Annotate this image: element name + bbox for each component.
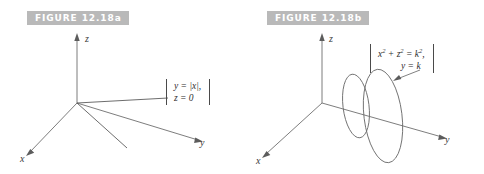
figure-panel-a: FIGURE 12.18a z x y: [0, 0, 242, 174]
figure-a-equation-line-2: z = 0: [174, 92, 201, 104]
z-axis-b: [319, 33, 324, 103]
figure-a-equation-box: y = |x|, z = 0: [166, 79, 210, 105]
figure-b-equation-line-1: x2 + z2 = k2,: [378, 45, 425, 60]
figure-pair-page: FIGURE 12.18a z x y: [0, 0, 484, 174]
circle-cross-section-large: [358, 67, 407, 165]
figure-b-equation-line-2: y = k: [378, 60, 425, 72]
figure-b-graphic: [242, 0, 484, 174]
figure-b-eq1-post: = k: [404, 49, 419, 59]
x-axis-b: [262, 103, 322, 158]
figure-b-equation-box: x2 + z2 = k2, y = k: [370, 44, 434, 73]
figure-panel-b: FIGURE 12.18b: [242, 0, 484, 174]
x-axis-a: [26, 103, 77, 156]
y-axis-label-b: y: [445, 134, 449, 145]
trace-ray-upper-a: [77, 98, 168, 103]
x-axis-label-b: x: [256, 155, 260, 166]
x-axis-label-a: x: [20, 153, 24, 164]
figure-b-eq1-tail: ,: [422, 49, 424, 59]
figure-a-equation-line-1: y = |x|,: [174, 80, 201, 92]
circle-cross-section-small: [339, 73, 373, 140]
trace-ray-lower-a: [77, 103, 127, 148]
y-axis-b: [322, 103, 447, 140]
figure-b-eq1-mid: + z: [385, 49, 400, 59]
z-axis-label-a: z: [85, 33, 89, 44]
y-axis-a: [77, 103, 203, 143]
z-axis-label-b: z: [329, 33, 333, 44]
y-axis-label-a: y: [200, 137, 204, 148]
z-axis-a: [74, 33, 79, 103]
